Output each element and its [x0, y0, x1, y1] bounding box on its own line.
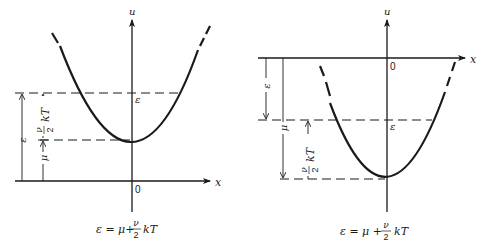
left-kt-text: kT [39, 106, 52, 122]
right-caption-frac-num: ν [383, 220, 389, 230]
right-caption-lhs: ε = μ + [340, 225, 382, 238]
right-caption-frac-den: 2 [383, 232, 388, 242]
left-caption-frac-num: ν [133, 218, 139, 228]
diagram-canvas: u x 0 ε ε μ ν 2 kT ε = μ+ ν [0, 0, 488, 251]
right-kt-frac-den: 2 [310, 167, 320, 172]
right-caption-rhs: kT [394, 225, 410, 238]
right-kt-text: kT [304, 146, 317, 162]
left-mu-dimension-label: μ [38, 155, 49, 162]
left-x-axis-label: x [215, 176, 222, 189]
left-figure: u x 0 ε ε μ ν 2 kT ε = μ+ ν [15, 6, 222, 240]
right-parabola-dash-left-1 [320, 66, 324, 76]
right-caption: ε = μ + ν 2 kT [340, 220, 410, 242]
right-epsilon-dimension-label: ε [261, 83, 272, 88]
right-epsilon-level-label: ε [390, 121, 395, 132]
left-caption-rhs: kT [143, 223, 159, 236]
right-origin-label: 0 [390, 61, 396, 72]
left-origin-label: 0 [135, 184, 141, 195]
left-caption-frac-den: 2 [133, 230, 138, 240]
left-caption-lhs: ε = μ+ [96, 223, 134, 236]
left-u-axis-label: u [129, 6, 135, 17]
right-x-axis-label: x [470, 53, 477, 66]
right-figure: u x 0 ε ε μ ν 2 kT ε = [258, 6, 477, 242]
right-u-axis-label: u [384, 6, 390, 17]
left-parabola-dash-left [52, 33, 58, 43]
right-parabola-dash-right-2 [452, 62, 455, 71]
left-caption: ε = μ+ ν 2 kT [96, 218, 159, 240]
left-epsilon-dimension-label: ε [17, 137, 28, 142]
right-mu-dimension-label: μ [278, 125, 289, 132]
left-kt-frac-den: 2 [45, 127, 55, 132]
left-kt-frac-num: ν [34, 127, 44, 133]
left-parabola [60, 46, 198, 142]
right-kt-frac-num: ν [299, 167, 309, 173]
right-parabola-dash-left-2 [326, 82, 330, 96]
right-parabola-dash-right-1 [447, 77, 450, 86]
left-epsilon-level-label: ε [135, 94, 140, 105]
left-parabola-dash-right-2 [206, 26, 210, 34]
left-parabola-dash-right-1 [200, 38, 204, 46]
